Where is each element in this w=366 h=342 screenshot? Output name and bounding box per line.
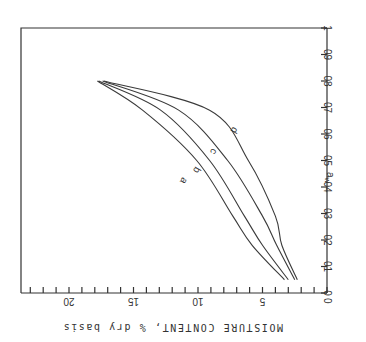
curve-label-a: a [178, 176, 191, 187]
moisture-axis-title: MOISTURE CONTENT, % dry basis [62, 322, 283, 333]
origin-label: 0 [322, 298, 333, 304]
moisture-tick-label: 20 [63, 296, 75, 307]
aw-tick-label: 1 [322, 25, 333, 31]
moisture-sorption-chart: 00102030405060708091 51015200 abcd aw MO… [0, 0, 366, 342]
aw-tick-label: 05 [322, 155, 333, 167]
curve-d [104, 81, 297, 280]
aw-tick-label: 03 [322, 208, 333, 220]
moisture-tick-label: 10 [192, 296, 204, 307]
isotherm-curves [97, 81, 297, 280]
aw-tick-label: 09 [322, 49, 333, 61]
aw-tick-label: 01 [322, 261, 333, 273]
aw-tick-label: 06 [322, 128, 333, 140]
aw-tick-label: 02 [322, 234, 333, 246]
moisture-tick-label: 5 [259, 296, 265, 307]
moisture-tick-label: 15 [128, 296, 140, 307]
aw-tick-label: 08 [322, 75, 333, 87]
aw-axis-title: aw [323, 172, 335, 184]
aw-tick-label: 07 [322, 102, 333, 114]
moisture-axis-ticks: 51015200 [30, 287, 332, 307]
